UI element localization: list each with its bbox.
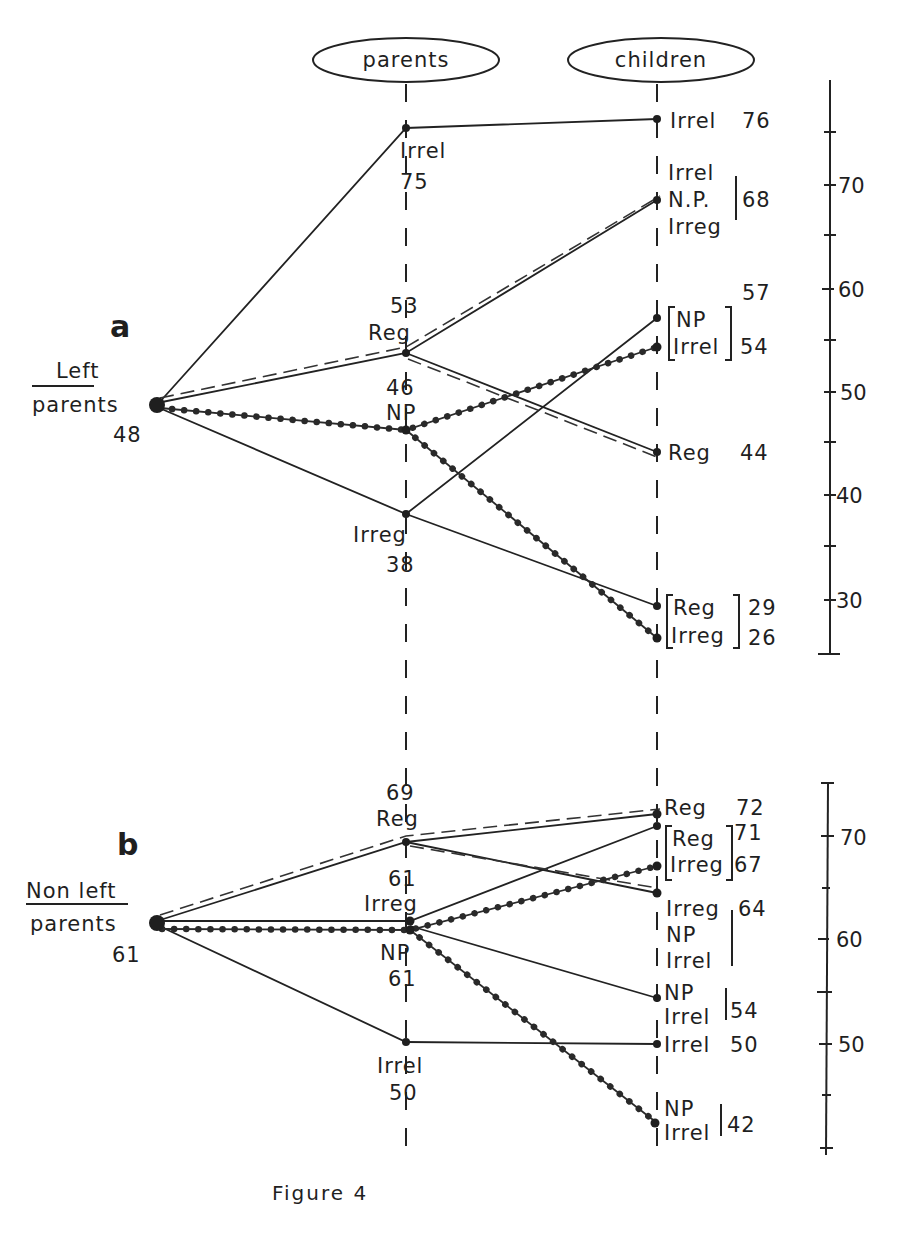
b-child-64-line1: Irreg xyxy=(666,897,720,921)
b-child-54-line2: Irrel xyxy=(664,1005,710,1029)
node-a-child-76 xyxy=(653,115,661,123)
a-child-irrel76-label: Irrel xyxy=(670,109,716,133)
b-parent-reg-label: Reg xyxy=(376,807,419,831)
a-child-68-line2: N.P. xyxy=(668,188,710,212)
a-parent-irrel-value: 75 xyxy=(400,170,429,194)
node-b-parent-irrel xyxy=(402,1038,410,1046)
node-b-child-72 xyxy=(653,810,662,819)
axis-a-label-40: 40 xyxy=(836,484,863,508)
panel-b-source-label-2: parents xyxy=(30,912,117,936)
b-child-71-value: 71 xyxy=(734,821,763,845)
a-parent-np-value: 46 xyxy=(386,376,415,400)
node-a-child-29 xyxy=(653,602,661,610)
panel-a: a Left parents 48 xyxy=(32,80,867,654)
b-parent-irreg-value: 61 xyxy=(388,867,417,891)
a-child-irrel76-value: 76 xyxy=(742,109,771,133)
dotted-a-np-irreg-core xyxy=(406,430,657,638)
a-parent-reg-value: 53 xyxy=(390,294,419,318)
b-parent-irreg-label: Irreg xyxy=(364,892,418,916)
column-guides xyxy=(406,84,657,1150)
parents-header: parents xyxy=(313,38,499,82)
node-a-parent-irrel xyxy=(402,124,410,132)
a-child-reg29-label: Reg xyxy=(673,596,716,620)
b-child-64-value: 64 xyxy=(738,897,767,921)
panel-a-source-value: 48 xyxy=(113,423,142,447)
a-child-68-value: 68 xyxy=(742,188,771,212)
a-child-irreg26-label: Irreg xyxy=(671,624,725,648)
b-parent-reg-value: 69 xyxy=(386,781,415,805)
b-child-reg72-label: Reg xyxy=(664,796,707,820)
a-child-29-value: 29 xyxy=(748,596,777,620)
a-parent-irreg-label: Irreg xyxy=(353,523,407,547)
line-b-reg-irreg xyxy=(406,842,657,893)
b-child-irrel50-label: Irrel xyxy=(664,1033,710,1057)
b-child-42-line2: Irrel xyxy=(664,1121,710,1145)
line-a-reg-reg xyxy=(406,353,657,452)
line-a-irreg-reg xyxy=(406,514,657,606)
a-57-54-right-bracket xyxy=(725,307,731,360)
panel-a-source-label-1: Left xyxy=(56,359,100,383)
a-29-26-right-bracket xyxy=(733,595,739,648)
node-a-parent-np xyxy=(402,426,411,435)
b-child-42-value: 42 xyxy=(727,1113,756,1137)
b-parent-irrel-value: 50 xyxy=(389,1081,418,1105)
column-headers: parents children xyxy=(313,38,754,82)
a-child-26-value: 26 xyxy=(748,626,777,650)
axis-b-line xyxy=(826,783,828,1155)
a-parent-np-label: NP xyxy=(386,401,416,425)
node-b-child-64 xyxy=(653,889,662,898)
b-child-irrel50-value: 50 xyxy=(730,1033,759,1057)
node-a-child-68 xyxy=(653,196,661,204)
b-child-reg71-label: Reg xyxy=(672,827,715,851)
figure-4: parents children a Left parents 48 xyxy=(0,0,898,1239)
a-child-57-value: 57 xyxy=(742,281,771,305)
panel-b-source-node xyxy=(149,915,165,931)
axis-b-label-70: 70 xyxy=(840,826,867,850)
node-a-child-26 xyxy=(653,634,662,643)
dotted-b-np-np-core xyxy=(410,930,657,1123)
node-b-child-54 xyxy=(653,994,661,1002)
b-child-64-line2: NP xyxy=(666,923,696,947)
b-parent-np-value: 61 xyxy=(388,967,417,991)
panel-a-letter: a xyxy=(110,309,130,344)
parents-header-label: parents xyxy=(363,48,450,72)
b-child-54-line1: NP xyxy=(664,981,694,1005)
children-header: children xyxy=(568,38,754,82)
node-b-parent-reg xyxy=(402,838,410,846)
node-a-parent-reg xyxy=(402,349,410,357)
b-child-64-line3: Irrel xyxy=(666,949,712,973)
axis-b-label-50: 50 xyxy=(838,1033,865,1057)
b-parent-np-label: NP xyxy=(380,941,410,965)
a-child-irrel54-label: Irrel xyxy=(673,335,719,359)
node-a-parent-irreg xyxy=(402,510,410,518)
b-parent-irrel-label: Irrel xyxy=(377,1054,423,1078)
b-child-42-line1: NP xyxy=(664,1097,694,1121)
panel-a-source-label-2: parents xyxy=(32,393,119,417)
b-child-67-value: 67 xyxy=(734,853,763,877)
panel-b-axis xyxy=(817,783,834,1155)
axis-b-label-60: 60 xyxy=(836,928,863,952)
a-child-reg44-label: Reg xyxy=(668,441,711,465)
node-a-child-57 xyxy=(653,314,661,322)
node-b-child-50 xyxy=(653,1040,661,1048)
axis-a-label-50: 50 xyxy=(840,381,867,405)
a-parent-irreg-value: 38 xyxy=(386,553,415,577)
a-child-68-line3: Irreg xyxy=(668,215,722,239)
a-child-np57-label: NP xyxy=(676,308,706,332)
panel-b: b Non left parents 61 xyxy=(26,781,867,1155)
b-child-54-value: 54 xyxy=(730,999,759,1023)
node-b-child-67 xyxy=(653,862,662,871)
axis-a-label-70: 70 xyxy=(838,174,865,198)
a-child-reg44-value: 44 xyxy=(740,441,769,465)
panel-b-source-value: 61 xyxy=(112,943,141,967)
dashed-a-reg-reg xyxy=(408,359,657,457)
a-parent-reg-label: Reg xyxy=(368,321,411,345)
b-71-67-right-bracket xyxy=(726,826,732,880)
node-a-child-54 xyxy=(653,343,662,352)
node-b-parent-np xyxy=(406,926,415,935)
node-a-child-44 xyxy=(653,448,661,456)
children-header-label: children xyxy=(615,48,707,72)
panel-b-letter: b xyxy=(117,827,138,862)
panel-b-source-label-1: Non left xyxy=(26,879,117,903)
panel-a-source-node xyxy=(149,397,165,413)
